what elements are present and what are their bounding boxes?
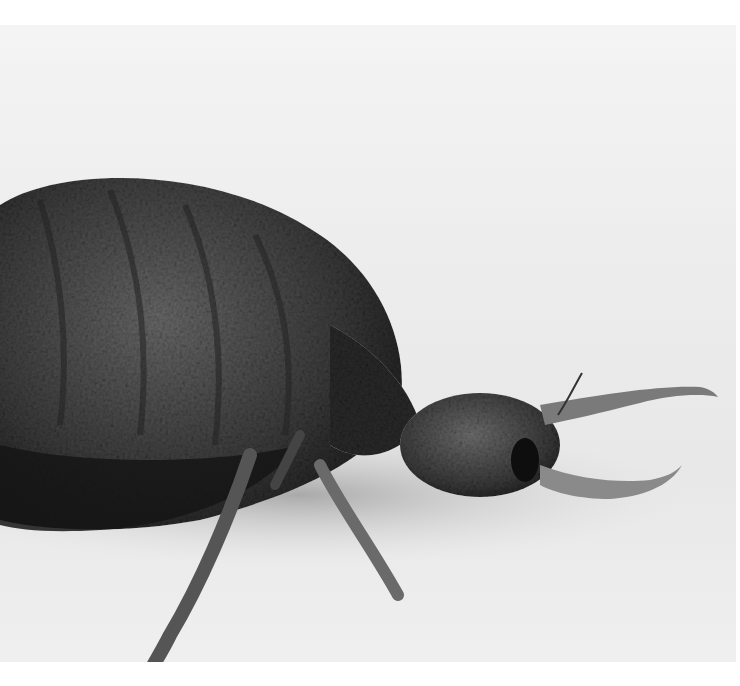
upper-mandible — [540, 387, 718, 425]
head — [400, 393, 560, 497]
antlion-larva-illustration — [0, 25, 736, 662]
photograph: Black and white close-up photograph of a… — [0, 25, 736, 662]
